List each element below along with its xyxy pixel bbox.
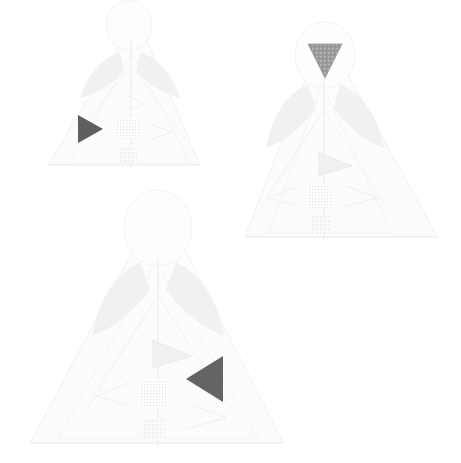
figure-3 <box>30 190 283 446</box>
figures-vector-layer <box>0 0 461 463</box>
figure-1-box-lower <box>119 146 137 162</box>
figure-3-box-upper <box>140 380 168 408</box>
image-canvas: Figure 1 Figure 2 Figure 3 <box>0 0 461 463</box>
figure-3-dome <box>124 190 192 266</box>
figure-3-box-lower <box>143 418 165 440</box>
figure-1-dome <box>106 0 152 50</box>
figure-2-box-lower <box>310 216 330 234</box>
figure-1-box-upper <box>117 118 139 140</box>
figure-1 <box>48 0 200 168</box>
figure-2 <box>245 22 438 240</box>
figure-2-box-upper <box>307 184 332 209</box>
